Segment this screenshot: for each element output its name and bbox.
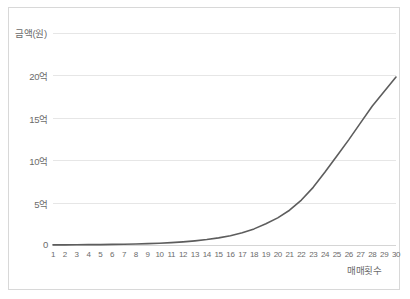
chart-plot-area: 금액(원) 매매횟수 20억15억10억5억0 1234567891011121…: [0, 0, 410, 299]
exponential-growth-line: [53, 77, 396, 245]
data-series-curve: [0, 0, 410, 299]
